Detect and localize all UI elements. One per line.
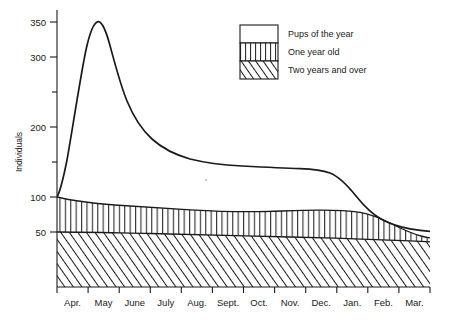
x-tick-label-oct: Oct. bbox=[250, 297, 267, 308]
area-two-years-and-over bbox=[57, 232, 430, 287]
scan-speck bbox=[205, 179, 207, 181]
x-tick-label-feb: Feb. bbox=[374, 297, 393, 308]
population-age-structure-chart: 350 300 200 100 50 Individuals Apr. May … bbox=[0, 0, 451, 330]
x-tick-label-mar: Mar. bbox=[405, 297, 423, 308]
legend: Pups of the year One year old Two years … bbox=[240, 25, 367, 79]
legend-label-one-year-old: One year old bbox=[288, 47, 340, 57]
x-tick-label-dec: Dec. bbox=[311, 297, 331, 308]
y-tick-label-300: 300 bbox=[30, 52, 46, 63]
figure-container: 350 300 200 100 50 Individuals Apr. May … bbox=[0, 0, 451, 330]
legend-swatch-pups-of-the-year bbox=[240, 25, 278, 43]
legend-label-two-years-and-over: Two years and over bbox=[288, 65, 367, 75]
y-axis-title: Individuals bbox=[14, 132, 24, 172]
y-tick-label-100: 100 bbox=[30, 192, 46, 203]
y-tick-label-200: 200 bbox=[30, 122, 46, 133]
x-tick-label-nov: Nov. bbox=[281, 297, 300, 308]
y-tick-label-350: 350 bbox=[30, 17, 46, 28]
x-tick-label-june: June bbox=[124, 297, 145, 308]
x-tick-label-apr: Apr. bbox=[64, 297, 81, 308]
x-tick-label-sept: Sept. bbox=[217, 297, 239, 308]
x-tick-label-jan: Jan. bbox=[343, 297, 361, 308]
x-tick-label-july: July bbox=[157, 297, 174, 308]
x-tick-label-may: May bbox=[95, 297, 113, 308]
x-tick-label-aug: Aug. bbox=[187, 297, 207, 308]
legend-swatch-one-year-old bbox=[240, 43, 278, 61]
y-tick-label-50: 50 bbox=[35, 227, 46, 238]
legend-label-pups-of-the-year: Pups of the year bbox=[288, 29, 354, 39]
legend-swatch-two-years-and-over bbox=[240, 61, 278, 79]
